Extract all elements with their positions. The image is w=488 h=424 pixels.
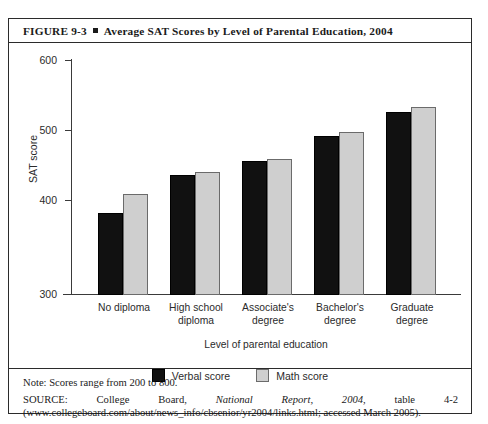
bar-verbal-high-school-diploma[interactable]	[170, 175, 195, 295]
bar-verbal-associates-degree[interactable]	[242, 161, 267, 295]
bar-group-bachelors-degree: Bachelor's degree	[314, 71, 366, 295]
y-axis-title: SAT score	[27, 135, 39, 183]
bar-verbal-no-diploma[interactable]	[98, 213, 123, 295]
source-report-title: National Report, 2004	[216, 394, 363, 405]
bar-group-high-school-diploma: High school diploma	[170, 71, 222, 295]
y-tick-label-400: 400	[39, 194, 57, 206]
figure-container: FIGURE 9-3 Average SAT Scores by Level o…	[8, 18, 472, 414]
y-tick-label-300: 300	[39, 288, 57, 300]
figure-footer: Note: Scores range from 200 to 800. SOUR…	[23, 376, 458, 420]
y-tick-label-500: 500	[39, 124, 57, 136]
bar-group-graduate-degree: Graduate degree	[386, 71, 438, 295]
x-axis-title: Level of parental education	[71, 339, 461, 350]
page-title: Average SAT Scores by Level of Parental …	[104, 25, 393, 37]
title-bullet-square-icon	[93, 28, 98, 33]
bar-math-no-diploma[interactable]	[123, 194, 148, 296]
footer-divider	[9, 368, 471, 369]
bar-math-bachelors-degree[interactable]	[339, 132, 364, 295]
figure-title-bar: FIGURE 9-3 Average SAT Scores by Level o…	[9, 19, 471, 43]
bar-verbal-bachelors-degree[interactable]	[314, 136, 339, 295]
bars-layer: No diploma High school diploma	[71, 71, 461, 295]
chart-area: SAT score 600 500 400 300	[9, 43, 471, 353]
bar-math-high-school-diploma[interactable]	[195, 172, 220, 295]
bar-math-associates-degree[interactable]	[267, 159, 292, 295]
figure-number: FIGURE 9-3	[23, 25, 87, 37]
x-tick-label-graduate-degree: Graduate degree	[364, 302, 460, 327]
note-text: Note: Scores range from 200 to 800.	[23, 376, 458, 390]
bar-verbal-graduate-degree[interactable]	[386, 112, 411, 295]
source-prefix: SOURCE: College Board,	[23, 394, 216, 405]
y-tick-label-600: 600	[39, 54, 57, 66]
bar-group-no-diploma: No diploma	[98, 71, 150, 295]
y-tick-600: 600	[65, 60, 71, 61]
bar-math-graduate-degree[interactable]	[411, 107, 436, 295]
plot-region: 600 500 400 300 No diploma	[71, 71, 461, 295]
source-text: SOURCE: College Board, National Report, …	[23, 393, 458, 420]
bar-group-associates-degree: Associate's degree	[242, 71, 294, 295]
